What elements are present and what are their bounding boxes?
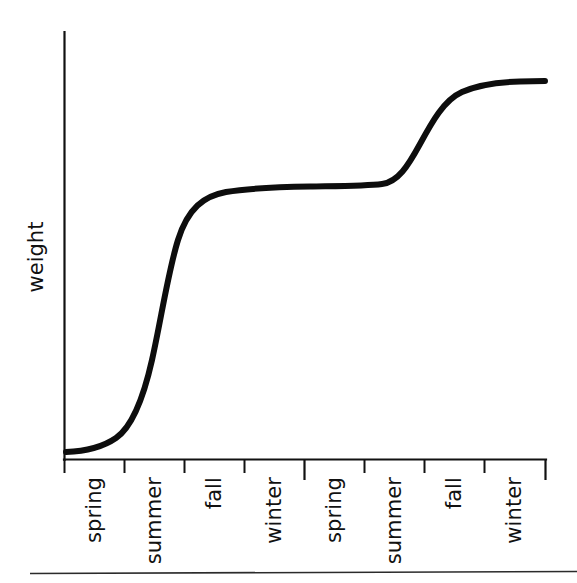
y-axis-label: weight (24, 222, 48, 293)
x-tick-label-spring-y1: spring (82, 477, 106, 543)
growth-curve-chart: weight spring summer fall winter spring … (0, 0, 577, 583)
x-axis-ticks (65, 460, 546, 480)
weight-curve (66, 81, 545, 452)
x-tick-label-summer-y2: summer (382, 477, 406, 565)
x-tick-label-fall-y2: fall (442, 477, 466, 509)
x-tick-label-winter-y1: winter (262, 477, 286, 544)
x-tick-label-summer-y1: summer (142, 477, 166, 565)
x-tick-label-fall-y1: fall (202, 477, 226, 509)
x-axis-tick-labels: spring summer fall winter spring summer … (82, 477, 526, 565)
x-tick-label-winter-y2: winter (502, 477, 526, 544)
bottom-divider-rule (30, 572, 577, 574)
chart-figure: weight spring summer fall winter spring … (0, 0, 577, 583)
x-tick-label-spring-y2: spring (322, 477, 346, 543)
